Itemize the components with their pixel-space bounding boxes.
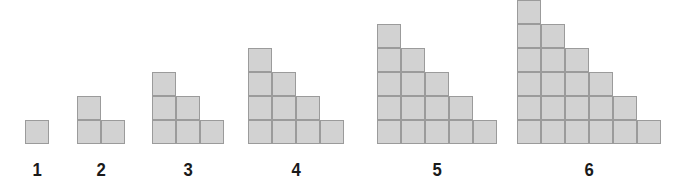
figure-label: 6 xyxy=(526,160,653,179)
square-cell xyxy=(473,120,497,144)
square-cell xyxy=(248,96,272,120)
figure-group: 1 xyxy=(25,120,49,144)
square-cell xyxy=(589,72,613,96)
figure-group: 2 xyxy=(77,96,125,144)
square-cell xyxy=(613,120,637,144)
square-cell xyxy=(377,96,401,120)
square-cell xyxy=(613,96,637,120)
square-cell xyxy=(248,120,272,144)
figure-group: 6 xyxy=(517,0,661,144)
square-cell xyxy=(541,24,565,48)
square-cell xyxy=(517,48,541,72)
square-cell xyxy=(517,96,541,120)
square-cell xyxy=(200,120,224,144)
square-cell xyxy=(565,72,589,96)
square-cell xyxy=(401,96,425,120)
square-cell xyxy=(272,120,296,144)
square-cell xyxy=(401,48,425,72)
staircase-shape xyxy=(517,0,661,144)
square-cell xyxy=(517,24,541,48)
figure-sequence: 123456 xyxy=(0,0,681,184)
square-cell xyxy=(296,96,320,120)
square-cell xyxy=(425,72,449,96)
square-cell xyxy=(517,72,541,96)
square-cell xyxy=(565,96,589,120)
square-cell xyxy=(517,120,541,144)
square-cell xyxy=(517,0,541,24)
staircase-shape xyxy=(25,120,49,144)
square-cell xyxy=(77,96,101,120)
square-cell xyxy=(25,120,49,144)
staircase-shape xyxy=(152,72,224,144)
square-cell xyxy=(296,120,320,144)
staircase-shape xyxy=(77,96,125,144)
square-cell xyxy=(541,48,565,72)
figure-label: 5 xyxy=(384,160,490,179)
square-cell xyxy=(541,96,565,120)
figure-label: 4 xyxy=(254,160,338,179)
figure-group: 5 xyxy=(377,24,497,144)
square-cell xyxy=(77,120,101,144)
square-cell xyxy=(272,96,296,120)
square-cell xyxy=(176,96,200,120)
square-cell xyxy=(176,120,200,144)
square-cell xyxy=(449,96,473,120)
square-cell xyxy=(565,48,589,72)
square-cell xyxy=(272,72,296,96)
square-cell xyxy=(589,96,613,120)
square-cell xyxy=(152,120,176,144)
square-cell xyxy=(152,96,176,120)
square-cell xyxy=(401,120,425,144)
figure-group: 3 xyxy=(152,72,224,144)
square-cell xyxy=(101,120,125,144)
square-cell xyxy=(637,120,661,144)
figure-label: 1 xyxy=(26,160,47,179)
square-cell xyxy=(377,48,401,72)
square-cell xyxy=(377,72,401,96)
staircase-shape xyxy=(248,48,344,144)
square-cell xyxy=(248,72,272,96)
staircase-shape xyxy=(377,24,497,144)
figure-group: 4 xyxy=(248,48,344,144)
square-cell xyxy=(377,120,401,144)
square-cell xyxy=(541,120,565,144)
square-cell xyxy=(152,72,176,96)
square-cell xyxy=(589,120,613,144)
square-cell xyxy=(425,120,449,144)
square-cell xyxy=(377,24,401,48)
figure-label: 2 xyxy=(80,160,122,179)
square-cell xyxy=(401,72,425,96)
square-cell xyxy=(248,48,272,72)
square-cell xyxy=(425,96,449,120)
square-cell xyxy=(320,120,344,144)
figure-label: 3 xyxy=(156,160,219,179)
square-cell xyxy=(449,120,473,144)
square-cell xyxy=(565,120,589,144)
square-cell xyxy=(541,72,565,96)
